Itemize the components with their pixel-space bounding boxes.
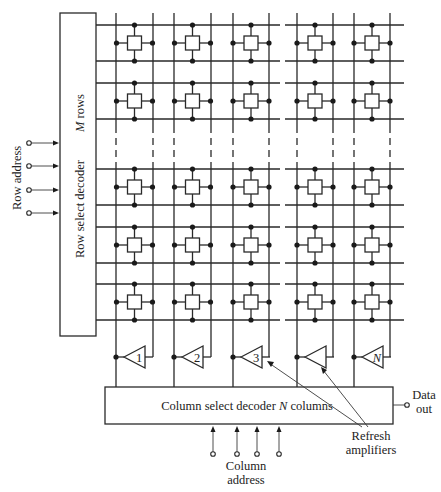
refresh-amplifiers: 1 2 3 N [113,346,391,368]
refresh-amplifier-1: 1 [113,346,153,368]
svg-text:3: 3 [253,351,259,365]
memory-cell [351,22,392,63]
svg-text:1: 1 [136,351,142,365]
row-decoder-label: Row select decoder [73,159,87,258]
memory-cell [230,166,271,207]
svg-text:N: N [372,351,382,365]
data-out: Data out [393,388,436,416]
row-address-input-2 [27,164,59,169]
column-address-label-line1: Column [226,459,267,473]
memory-cell [114,80,155,121]
memory-cell [172,281,213,322]
svg-text:out: out [416,402,433,416]
column-address-label-line2: address [227,473,265,487]
column-address-inputs [211,426,282,456]
m-rows-label: M rows [73,94,87,133]
column-address-input-4 [277,426,282,456]
row-address-input-3 [27,188,59,193]
row-address-inputs [27,141,59,216]
refresh-amplifier-2: 2 [171,346,211,368]
memory-cell [172,80,213,121]
row-lines [96,25,404,320]
memory-cell [172,224,213,265]
memory-cell [172,22,213,63]
refresh-amplifier-n: N [351,346,391,368]
column-address-input-2 [235,426,240,456]
memory-cell [294,80,335,121]
svg-text:Data: Data [412,388,436,402]
svg-text:amplifiers: amplifiers [346,443,397,457]
memory-cell [294,281,335,322]
memory-cell [351,224,392,265]
refresh-amplifier-3: 3 [230,346,270,368]
row-address-label: Row address [10,146,24,210]
svg-text:2: 2 [194,351,200,365]
memory-cell [351,80,392,121]
memory-cell [230,80,271,121]
memory-cell [172,166,213,207]
row-address-input-4 [27,211,59,216]
memory-cell [294,166,335,207]
svg-text:Refresh: Refresh [352,429,392,443]
memory-cells [114,22,393,322]
column-address-input-3 [255,426,260,456]
memory-cell [294,224,335,265]
memory-cell [351,281,392,322]
column-lines [116,13,390,387]
refresh-amplifier-4 [294,346,334,368]
memory-cell [114,166,155,207]
memory-cell [351,166,392,207]
column-address-input-1 [211,426,216,456]
memory-cell [230,22,271,63]
memory-cell [294,22,335,63]
memory-cell [230,281,271,322]
column-decoder-label: Column select decoder N columns [161,399,333,413]
memory-cell [114,281,155,322]
memory-cell [114,224,155,265]
dram-array-diagram: Row select decoder M rows Row address [0,0,441,492]
memory-cell [230,224,271,265]
row-address-input-1 [27,141,59,146]
memory-cell [114,22,155,63]
